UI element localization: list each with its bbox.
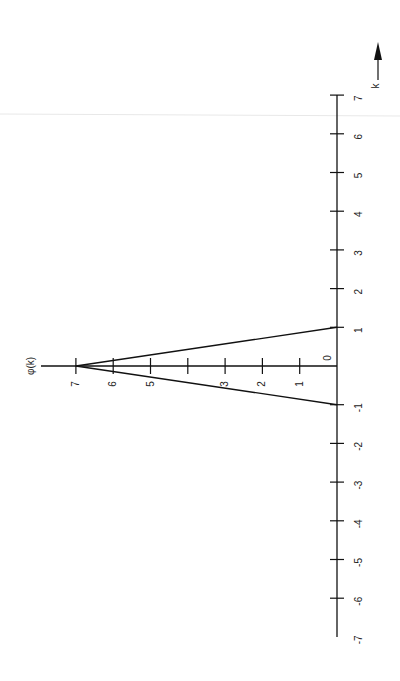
k-tick-label: 7	[353, 95, 364, 101]
k-tick-label: -3	[353, 480, 364, 489]
triangle-function-chart: -7-6-5-4-3-2-11234567 123567 0 φ(k) k	[0, 0, 400, 681]
phi-tick-label: 1	[294, 381, 305, 387]
scan-artifact-line	[0, 114, 400, 116]
phi-axis-title: φ(k)	[25, 357, 36, 375]
k-tick-label: 3	[353, 250, 364, 256]
k-tick-label: -1	[353, 403, 364, 412]
k-direction-arrow-icon	[374, 42, 382, 80]
k-axis-title: k	[370, 83, 381, 89]
phi-axis-tick-labels: 123567	[70, 381, 305, 387]
phi-tick-label: 7	[70, 381, 81, 387]
k-tick-label: -4	[353, 519, 364, 528]
k-tick-label: -7	[353, 635, 364, 644]
phi-tick-label: 2	[256, 381, 267, 387]
k-tick-label: 6	[353, 134, 364, 140]
k-tick-label: 5	[353, 172, 364, 178]
k-tick-label: -5	[353, 558, 364, 567]
k-tick-label: 2	[353, 288, 364, 294]
k-tick-label: 4	[353, 211, 364, 217]
k-axis-tick-labels: -7-6-5-4-3-2-11234567	[353, 95, 364, 644]
phi-tick-label: 3	[219, 381, 230, 387]
k-tick-label: -2	[353, 442, 364, 451]
phi-tick-label: 6	[107, 381, 118, 387]
origin-label: 0	[322, 355, 333, 361]
phi-tick-label: 5	[145, 381, 156, 387]
k-tick-label: -6	[353, 596, 364, 605]
k-tick-label: 1	[353, 327, 364, 333]
